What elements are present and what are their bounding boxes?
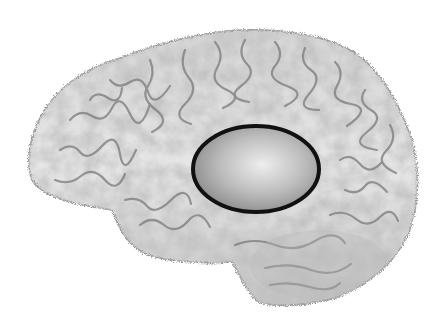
highlight-ellipse bbox=[193, 126, 319, 212]
brain-figure bbox=[0, 0, 444, 328]
brain-illustration bbox=[0, 0, 444, 328]
